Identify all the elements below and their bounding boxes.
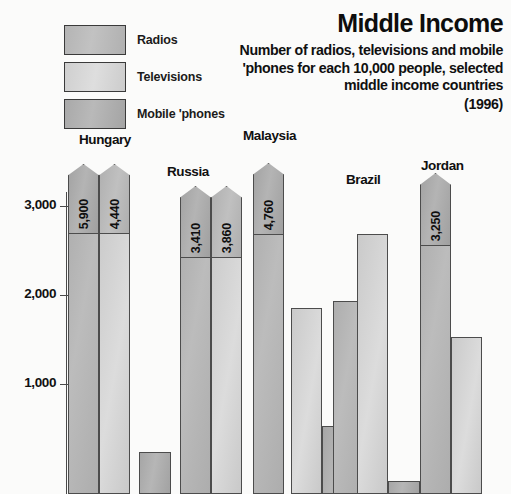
bar-flag-russia-televisions: 3,860 xyxy=(211,186,242,258)
legend-item-televisions: Televisions xyxy=(64,59,264,95)
chart-legend: Radios Televisions Mobile 'phones xyxy=(64,22,264,133)
legend-label-mobile-phones: Mobile 'phones xyxy=(137,107,225,121)
chart-page: Radios Televisions Mobile 'phones Middle… xyxy=(0,0,511,494)
bar-flag-hungary-radios: 5,900 xyxy=(68,164,99,234)
bar-flag-malaysia-radios: 4,760 xyxy=(253,163,284,235)
bar-flag-jordan-radios: 3,250 xyxy=(420,173,451,246)
legend-item-radios: Radios xyxy=(64,22,264,58)
bar-brazil-televisions xyxy=(357,234,388,494)
bar-russia-televisions xyxy=(211,230,242,494)
bar-value-hungary-radios: 5,900 xyxy=(77,199,91,229)
chart-year-annotation: (1996) xyxy=(237,96,503,112)
bar-flag-russia-radios: 3,410 xyxy=(180,186,211,258)
bar-russia-radios xyxy=(180,230,211,494)
bar-hungary-radios xyxy=(68,207,99,494)
bar-value-jordan-radios: 3,250 xyxy=(429,211,443,241)
bar-flag-hungary-televisions: 4,440 xyxy=(99,164,130,234)
bar-group-container: 5,900 4,440 3,410 xyxy=(0,140,511,494)
bar-malaysia-televisions xyxy=(291,308,322,494)
bar-brazil-mobile-phones xyxy=(388,481,420,494)
radios-swatch-icon xyxy=(64,25,126,55)
bar-jordan-radios xyxy=(420,224,451,494)
bar-value-hungary-televisions: 4,440 xyxy=(108,199,122,229)
televisions-swatch-icon xyxy=(64,62,126,92)
legend-label-radios: Radios xyxy=(137,33,177,47)
bar-value-russia-televisions: 3,860 xyxy=(220,223,234,253)
chart-subtitle: Number of radios, televisions and mobile… xyxy=(237,42,503,95)
chart-title: Middle Income xyxy=(237,10,503,36)
bar-value-russia-radios: 3,410 xyxy=(189,223,203,253)
bar-value-malaysia-radios: 4,760 xyxy=(262,200,276,230)
legend-item-mobile-phones: Mobile 'phones xyxy=(64,96,264,132)
bar-jordan-televisions xyxy=(451,337,482,494)
title-block: Middle Income Number of radios, televisi… xyxy=(237,10,503,112)
bar-malaysia-radios xyxy=(253,210,284,494)
bar-hungary-televisions xyxy=(99,209,130,494)
plot-area: 3,000 2,000 1,000 Hungary Russia Malaysi… xyxy=(0,140,511,494)
legend-label-televisions: Televisions xyxy=(137,70,202,84)
mobile-phones-swatch-icon xyxy=(64,99,126,129)
bar-hungary-mobile-phones xyxy=(139,452,171,494)
